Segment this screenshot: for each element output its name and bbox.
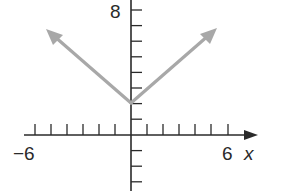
x-tick-label-6: 6: [222, 143, 233, 164]
x-axis-arrow-icon: [244, 130, 258, 140]
graph-plot: 8 −6 6 x: [0, 0, 282, 191]
y-tick-label-8: 8: [110, 1, 121, 22]
x-tick-label-neg6: −6: [13, 143, 35, 164]
x-axis-label: x: [243, 143, 255, 164]
